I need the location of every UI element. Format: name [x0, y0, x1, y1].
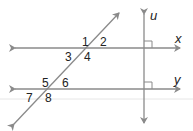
angle-2: 2 — [100, 35, 107, 49]
angle-7: 7 — [26, 91, 33, 105]
angle-3: 3 — [65, 50, 72, 64]
transversal-line — [14, 13, 119, 124]
label-x: x — [174, 31, 182, 46]
angle-8: 8 — [45, 91, 52, 105]
right-angle-marker-x — [144, 41, 152, 48]
angle-5: 5 — [42, 76, 49, 90]
angle-1: 1 — [82, 35, 89, 49]
angle-4: 4 — [84, 50, 91, 64]
angle-6: 6 — [62, 76, 69, 90]
right-angle-marker-y — [144, 82, 152, 89]
label-u: u — [150, 8, 157, 23]
parallel-lines-diagram: u x y 1 2 3 4 5 6 7 8 — [0, 0, 193, 131]
label-y: y — [173, 72, 182, 87]
